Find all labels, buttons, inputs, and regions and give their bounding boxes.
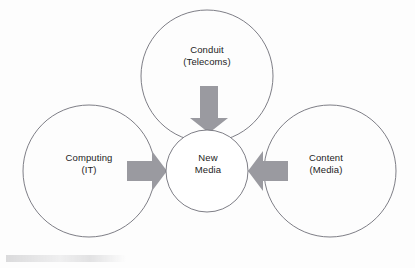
venn-diagram-svg <box>0 0 415 268</box>
label-content: Content (Media) <box>276 152 376 176</box>
label-new-media: New Media <box>167 152 249 176</box>
label-conduit: Conduit (Telecoms) <box>157 44 257 68</box>
label-content-sublabel: (Media) <box>276 164 376 176</box>
label-conduit-sublabel: (Telecoms) <box>157 56 257 68</box>
scan-artifact <box>6 255 126 262</box>
diagram-canvas: Conduit (Telecoms) Computing (IT) Conten… <box>0 0 415 268</box>
label-new-media-line1: New <box>167 152 249 164</box>
label-new-media-line2: Media <box>167 164 249 176</box>
label-computing: Computing (IT) <box>39 152 139 176</box>
label-computing-title: Computing <box>39 152 139 164</box>
label-computing-sublabel: (IT) <box>39 164 139 176</box>
label-conduit-title: Conduit <box>157 44 257 56</box>
label-content-title: Content <box>276 152 376 164</box>
